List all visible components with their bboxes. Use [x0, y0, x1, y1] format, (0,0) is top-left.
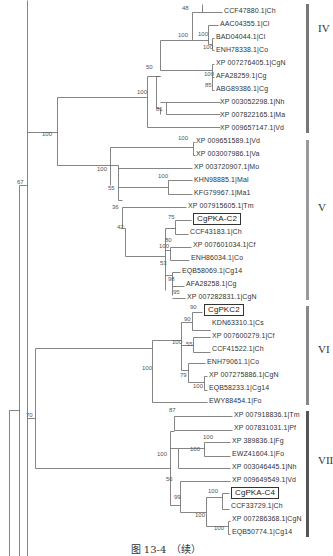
bootstrap-value: 100 [178, 135, 188, 142]
figure-caption: 图 13-4 （续） [0, 541, 332, 556]
bootstrap-value: 100 [193, 383, 203, 390]
leaf-label: XP 007276405.1|CgN [216, 58, 286, 67]
clade-bracket [306, 140, 309, 300]
bootstrap-value: 100 [208, 488, 218, 495]
leaf-label: XP 389836.1|Fg [232, 436, 284, 445]
leaf-label: XP 009657147.1|Vd [220, 123, 284, 132]
clade-bracket [306, 411, 309, 537]
bootstrap-value: 100 [198, 31, 208, 38]
leaf-label: XP 007282831.1|CgN [187, 292, 257, 301]
bootstrap-value: 100 [203, 44, 213, 51]
leaf-label: XP 007600279.1|Cf [212, 331, 275, 340]
leaf-label: XP 007275886.1|CgN [209, 370, 279, 379]
leaf-label: XP 009649549.1|Vd [232, 475, 296, 484]
leaf-label: KFG79967.1|Ma1 [194, 188, 251, 197]
leaf-label: AAC04355.1|Cl [220, 19, 269, 28]
bootstrap-value: 87 [169, 407, 176, 414]
leaf-label: XP 007918836.1|Tm [234, 410, 300, 419]
leaf-label: KDN63310.1|Cs [212, 318, 264, 327]
leaf-label: CCF43183.1|Ch [190, 227, 242, 236]
leaf-label: CCF41522.1|Ch [212, 344, 264, 353]
bootstrap-value: 100 [159, 243, 169, 250]
clade-label: V [318, 201, 326, 213]
bootstrap-value: 48 [182, 5, 189, 12]
bootstrap-value: 36 [112, 204, 119, 211]
leaf-label: AFA28259.1|Cg [216, 71, 267, 80]
bootstrap-value: 42 [117, 224, 124, 231]
bootstrap-value: 55 [186, 341, 193, 348]
bootstrap-value: 67 [17, 179, 24, 186]
leaf-label: XP 007601034.1|Cf [193, 240, 256, 249]
bootstrap-value: 100 [178, 32, 188, 39]
bootstrap-value: 55 [108, 185, 115, 192]
leaf-label: EQB50774.1|Cg14 [232, 527, 292, 536]
leaf-label: KHN98885.1|Mal [194, 175, 249, 184]
leaf-label: XP 009651589.1|Vd [196, 136, 260, 145]
highlighted-leaf-label: CgPKC2 [204, 304, 244, 316]
leaf-label: XP 007822165.1|Ma [220, 110, 285, 119]
clade-bracket [306, 306, 309, 405]
leaf-label: BAD04044.1|Cl [216, 32, 265, 41]
bootstrap-value: 75 [168, 214, 175, 221]
bootstrap-value: 81 [156, 106, 163, 113]
bootstrap-value: 99 [174, 494, 181, 501]
bootstrap-value: 53 [160, 260, 167, 267]
bootstrap-value: 100 [195, 512, 205, 519]
bootstrap-value: 100 [157, 451, 167, 458]
bootstrap-value: 100 [172, 339, 182, 346]
bootstrap-value: 90 [184, 316, 191, 323]
bootstrap-value: 90 [190, 304, 197, 311]
clade-label: VII [318, 454, 333, 466]
leaf-label: CCF33729.1|Ch [231, 501, 283, 510]
bootstrap-value: 56 [166, 476, 173, 483]
leaf-label: XP 007831031.1|Pf [234, 423, 296, 432]
leaf-label: ABG89386.1|Cg [216, 84, 268, 93]
bootstrap-value: 95 [173, 289, 180, 296]
highlighted-leaf-label: CgPKA-C4 [231, 487, 279, 499]
leaf-label: ENH79061.1|Co [207, 357, 259, 366]
bootstrap-value: 100 [97, 166, 107, 173]
bootstrap-value: 50 [146, 64, 153, 71]
bootstrap-value: 100 [137, 89, 147, 96]
bootstrap-value: 79 [180, 372, 187, 379]
leaf-label: AFA28258.1|Cg [186, 279, 237, 288]
leaf-label: ENH86034.1|Co [191, 253, 243, 262]
bootstrap-value: 100 [214, 525, 224, 532]
highlighted-leaf-label: CgPKA-C2 [193, 213, 241, 225]
bootstrap-value: 100 [42, 131, 52, 138]
leaf-label: EQB58233.1|Cg14 [209, 383, 269, 392]
bootstrap-value: 100 [158, 173, 168, 180]
clade-label: IV [318, 22, 330, 34]
clade-label: VI [318, 343, 330, 355]
leaf-label: EWY88454.1|Fo [209, 396, 262, 405]
leaf-label: EQB58069.1|Cg14 [182, 266, 242, 275]
bootstrap-value: 98 [168, 276, 175, 283]
bootstrap-value: 85 [205, 82, 212, 89]
bootstrap-value: 100 [190, 446, 200, 453]
leaf-label: XP 003052298.1|Nh [220, 97, 285, 106]
leaf-label: XP 007915605.1|Tm [188, 201, 254, 210]
leaf-label: XP 003046445.1|Nh [232, 462, 297, 471]
leaf-label: CCF47880.1|Ch [224, 6, 276, 15]
bootstrap-value: 100 [142, 365, 152, 372]
clade-bracket [306, 4, 309, 133]
leaf-label: XP 003720907.1|Mo [194, 162, 259, 171]
leaf-label: ENH78338.1|Co [216, 45, 268, 54]
bootstrap-value: 70 [26, 412, 33, 419]
leaf-label: XP 007286368.1|CgN [232, 514, 302, 523]
leaf-label: XP 003007986.1|Va [196, 149, 260, 158]
leaf-label: EWZ41604.1|Fo [232, 449, 284, 458]
bootstrap-value: 100 [203, 434, 213, 441]
bootstrap-value: 100 [204, 71, 214, 78]
